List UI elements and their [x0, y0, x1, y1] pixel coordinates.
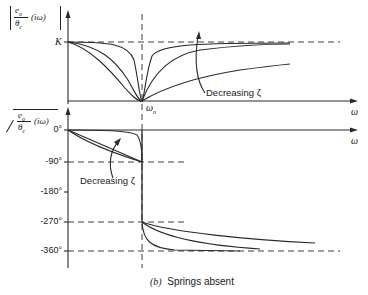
phase-tick-minus-360: -360° — [28, 246, 62, 255]
magnitude-y-arrow — [66, 10, 71, 18]
phase-curve-large-zeta-high — [142, 222, 315, 243]
magnitude-xlabel: ω — [351, 107, 358, 117]
phase-tick-minus-270: -270° — [28, 217, 62, 226]
phase-tick-minus-90: -90° — [28, 157, 62, 166]
figure-caption: (b) Springs absent — [150, 277, 234, 287]
magnitude-annotation: Decreasing ζ — [206, 88, 261, 98]
phase-tick-minus-180: -180° — [28, 187, 62, 196]
phase-annotation: Decreasing ζ — [80, 176, 135, 186]
phase-annotation-arrow — [110, 141, 119, 178]
k-tick-label: K — [55, 37, 62, 47]
phase-xlabel: ω — [351, 136, 358, 146]
phase-x-arrow — [350, 128, 358, 133]
magnitude-ylabel: eo θc (iω) — [10, 5, 62, 31]
magnitude-x-arrow — [350, 99, 358, 104]
phase-y-arrow — [66, 107, 71, 115]
phase-curve-medium-zeta-low — [68, 130, 142, 162]
omega-n-label: ωn — [146, 103, 156, 115]
phase-curve-medium-zeta-high — [142, 222, 260, 249]
phase-tick-0: 0° — [28, 125, 62, 134]
